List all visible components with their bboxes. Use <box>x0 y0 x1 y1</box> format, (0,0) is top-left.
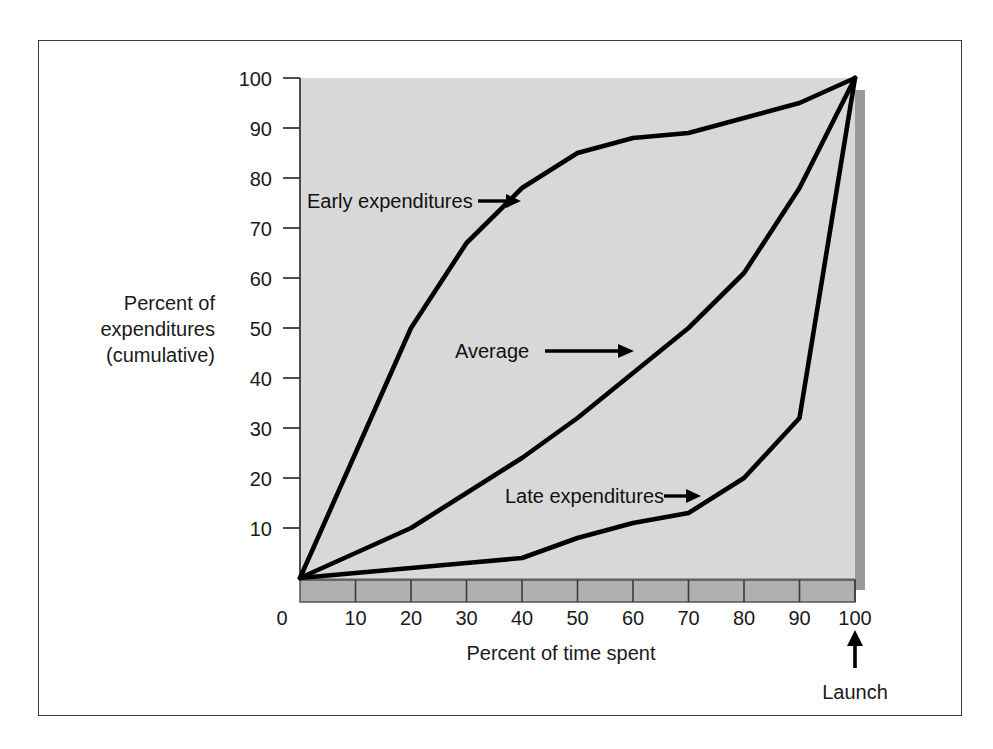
x-tick-label: 30 <box>455 607 477 629</box>
y-tick-label: 80 <box>250 168 272 190</box>
x-tick-label: 40 <box>511 607 533 629</box>
x-tick-label: 20 <box>400 607 422 629</box>
y-tick-label: 10 <box>250 518 272 540</box>
x-tick-label: 100 <box>838 607 871 629</box>
annotation-launch: Launch <box>822 630 888 703</box>
y-axis-title-line: expenditures <box>100 318 215 340</box>
series-label-late: Late expenditures <box>505 485 664 507</box>
figure-container: 100 90 80 70 60 50 40 30 20 10 0 10 20 3… <box>0 0 993 749</box>
y-tick-label: 90 <box>250 118 272 140</box>
chart-canvas: 100 90 80 70 60 50 40 30 20 10 0 10 20 3… <box>0 0 993 749</box>
launch-label: Launch <box>822 681 888 703</box>
x-tick-label: 60 <box>622 607 644 629</box>
y-tick-label: 20 <box>250 468 272 490</box>
x-tick-label: 50 <box>566 607 588 629</box>
y-tick-label: 40 <box>250 368 272 390</box>
series-label-average: Average <box>455 340 529 362</box>
y-tick-label: 60 <box>250 268 272 290</box>
x-axis-tick-labels: 0 10 20 30 40 50 60 70 80 90 100 <box>276 607 871 629</box>
y-axis-tick-marks <box>283 78 300 528</box>
y-tick-label: 50 <box>250 318 272 340</box>
y-axis-title-line: (cumulative) <box>106 344 215 366</box>
arrow-up-icon-launch <box>847 630 863 668</box>
y-tick-label: 100 <box>239 68 272 90</box>
y-axis-title-line: Percent of <box>124 292 216 314</box>
series-label-early: Early expenditures <box>307 190 473 212</box>
x-tick-label: 10 <box>344 607 366 629</box>
x-axis-title: Percent of time spent <box>467 642 656 664</box>
y-axis-tick-labels: 100 90 80 70 60 50 40 30 20 10 <box>239 68 272 540</box>
y-tick-label: 30 <box>250 418 272 440</box>
x-tick-label: 90 <box>788 607 810 629</box>
y-tick-label: 70 <box>250 218 272 240</box>
y-axis-title: Percent of expenditures (cumulative) <box>100 292 215 366</box>
x-tick-label: 70 <box>677 607 699 629</box>
x-tick-label: 0 <box>276 607 287 629</box>
x-tick-label: 80 <box>733 607 755 629</box>
